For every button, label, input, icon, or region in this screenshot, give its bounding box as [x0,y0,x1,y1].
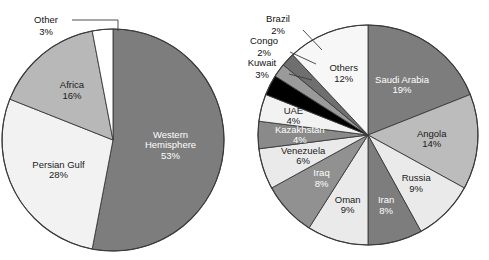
pie-slice-label: Africa16% [60,79,85,101]
pie-chart-figure: WesternHemisphere53%Persian Gulf28%Afric… [0,0,489,260]
pie-slice-label: Iraq8% [313,167,329,189]
pie-slice-label: Iran8% [378,194,394,216]
charts-svg-canvas: WesternHemisphere53%Persian Gulf28%Afric… [0,0,489,260]
pie-slice-label: UAE4% [284,104,304,126]
